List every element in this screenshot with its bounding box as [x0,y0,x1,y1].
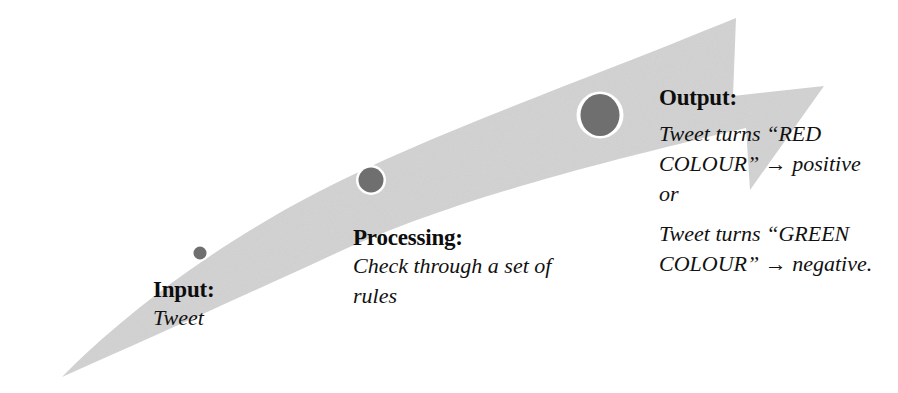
stage-input-title: Input: [153,277,214,303]
stage-input: Input: Tweet [153,277,214,333]
stage-output: Output: Tweet turns “RED COLOUR” → posit… [659,85,874,279]
node-processing [359,168,384,193]
stage-output-title: Output: [659,85,874,111]
stage-processing-title: Processing: [353,225,563,251]
stage-output-body-negative: Tweet turns “GREEN COLOUR” → negative. [659,219,874,279]
stage-processing: Processing: Check through a set of rules [353,225,563,311]
stage-output-body-positive: Tweet turns “RED COLOUR” → positive or [659,119,874,209]
node-output [581,94,620,136]
node-input [194,247,207,260]
stage-input-body: Tweet [153,303,214,333]
stage-processing-body: Check through a set of rules [353,251,563,311]
